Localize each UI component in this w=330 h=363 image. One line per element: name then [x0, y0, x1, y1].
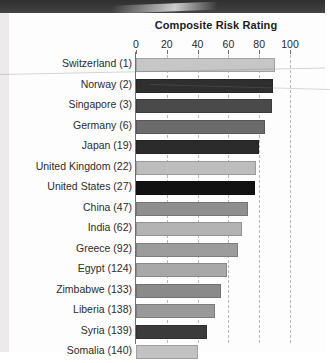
composite-risk-rating-chart: Composite Risk Rating 020406080100 Switz… [0, 13, 325, 352]
bar [136, 181, 255, 195]
x-tick-mark [136, 50, 137, 54]
x-tick-label: 40 [192, 38, 204, 50]
chart-row: Syria (139) [136, 322, 290, 343]
category-label: Germany (6) [73, 119, 132, 131]
bar [136, 99, 272, 113]
chart-row: India (62) [136, 219, 290, 240]
category-label: India (62) [88, 221, 132, 233]
category-label: United Kingdom (22) [36, 160, 132, 172]
category-label: Norway (2) [81, 78, 132, 90]
x-tick-mark [167, 50, 168, 54]
bar [136, 202, 248, 216]
chart-row: United Kingdom (22) [136, 158, 290, 179]
category-label: Japan (19) [82, 139, 132, 151]
x-tick-label: 60 [223, 38, 235, 50]
bar [136, 222, 242, 236]
category-label: Zimbabwe (133) [56, 283, 132, 295]
bar [136, 140, 259, 154]
bar [136, 161, 256, 175]
chart-row: Zimbabwe (133) [136, 281, 290, 302]
chart-row: Greece (92) [136, 240, 290, 261]
chart-title: Composite Risk Rating [136, 19, 296, 31]
category-label: United States (27) [47, 180, 132, 192]
category-label: Syria (139) [81, 324, 132, 336]
category-label: Singapore (3) [68, 98, 132, 110]
category-label: Liberia (138) [73, 303, 132, 315]
category-label: China (47) [83, 201, 132, 213]
chart-row: Singapore (3) [136, 96, 290, 117]
x-tick-label: 20 [161, 38, 173, 50]
bar [136, 120, 265, 134]
chart-row: Japan (19) [136, 137, 290, 158]
scan-glare [112, 0, 252, 13]
x-tick-label: 80 [253, 38, 265, 50]
chart-row: Egypt (124) [136, 260, 290, 281]
x-tick-mark [259, 50, 260, 54]
bar [136, 284, 221, 298]
chart-row: Liberia (138) [136, 301, 290, 322]
bar [136, 304, 215, 318]
chart-row: Switzerland (1) [136, 55, 290, 76]
category-label: Switzerland (1) [62, 57, 132, 69]
bar [136, 243, 238, 257]
x-tick-mark [290, 50, 291, 54]
plot-area: Switzerland (1)Norway (2)Singapore (3)Ge… [136, 55, 290, 343]
gridline [290, 55, 291, 343]
bar [136, 263, 227, 277]
x-axis-tick-labels: 020406080100 [0, 38, 325, 52]
chart-row: United States (27) [136, 178, 290, 199]
chart-row: China (47) [136, 199, 290, 220]
chart-row: Germany (6) [136, 117, 290, 138]
bar [136, 325, 207, 339]
x-tick-label: 100 [281, 38, 299, 50]
category-label: Egypt (124) [78, 262, 132, 274]
scan-edge-band [0, 0, 325, 13]
x-tick-label: 0 [133, 38, 139, 50]
chart-row: Somalia (140) [136, 342, 290, 363]
category-label: Greece (92) [76, 242, 132, 254]
category-label: Somalia (140) [67, 344, 132, 356]
x-tick-mark [228, 50, 229, 54]
bar [136, 345, 198, 359]
x-tick-mark [198, 50, 199, 54]
